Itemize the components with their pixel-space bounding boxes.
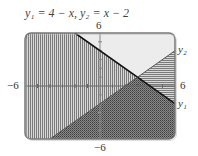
- label-xmax: 6: [180, 79, 186, 91]
- label-xmin: −6: [7, 79, 19, 91]
- label-ymax: 6: [96, 19, 102, 31]
- label-y1: y₁: [178, 97, 187, 109]
- label-ymin: −6: [94, 141, 106, 153]
- label-y2: y₂: [178, 43, 187, 55]
